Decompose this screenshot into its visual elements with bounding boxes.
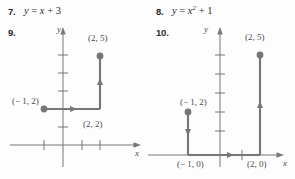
eq7-equals: =	[29, 5, 40, 16]
graph-9-x-axis-arrowhead	[134, 142, 142, 147]
eq7-tail: + 3	[45, 5, 61, 16]
exercise-number-7: 7.	[8, 6, 16, 17]
graph-9-label-2-5: (2, 5)	[88, 33, 108, 43]
graph-9-y-axis-arrowhead	[60, 27, 65, 35]
graph-9-y-axis-label: y	[57, 24, 61, 34]
graph-10-x-axis-label: x	[283, 158, 287, 168]
exercise-equation-8: y = x2 + 1	[172, 5, 212, 16]
exercise-number-8: 8.	[156, 6, 164, 17]
graph-10-label-neg1-2: (− 1, 2)	[180, 97, 207, 107]
graph-10-svg	[148, 22, 295, 179]
graph-10-x-axis-arrowhead	[277, 152, 285, 157]
eq8-equals: =	[177, 5, 188, 16]
graph-10-path-arrow-down	[185, 129, 191, 136]
graph-9-path	[44, 56, 100, 109]
graph-10-plot	[148, 22, 295, 179]
graph-10-path-arrow-up	[257, 101, 263, 108]
graph-9-point-dot-2-5	[97, 53, 104, 60]
graph-10-point-dot-neg1-2	[185, 109, 192, 116]
graph-10-y-axis-label: y	[204, 24, 208, 34]
graph-10-point-dot-2-5	[257, 52, 264, 59]
graph-9-x-axis-label: x	[135, 148, 139, 158]
graph-9-point-dot-neg1-2	[41, 106, 48, 113]
graph-9-label-neg1-2: (− 1, 2)	[12, 96, 39, 106]
graph-10-label-2-0: (2, 0)	[247, 159, 267, 169]
graph-9-path-arrow-vertical	[97, 78, 103, 85]
graph-10-y-axis-arrowhead	[217, 27, 222, 35]
graph-10-path-arrow-right	[227, 152, 234, 158]
textbook-page-fragment: 7. y = x + 3 8. y = x2 + 1 9.	[0, 0, 295, 179]
exercise-equation-7: y = x + 3	[24, 5, 61, 16]
graph-10-label-neg1-0: (− 1, 0)	[177, 159, 204, 169]
eq8-tail: + 1	[196, 5, 212, 16]
graph-10-label-2-5: (2, 5)	[245, 32, 265, 42]
graph-9-path-arrow-horizontal	[70, 106, 77, 112]
graph-9-label-2-2: (2, 2)	[83, 119, 103, 129]
